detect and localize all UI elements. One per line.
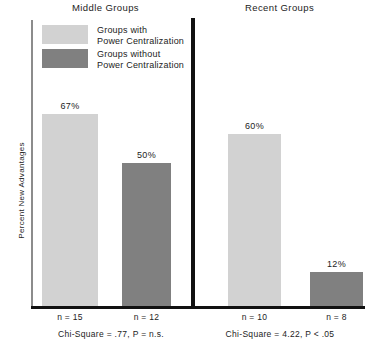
y-axis-line (31, 20, 33, 308)
legend: Groups with Power Centralization Groups … (42, 25, 184, 73)
y-axis-label: Percent New Advantages (17, 121, 26, 261)
bar-recent-without-power (310, 272, 363, 306)
legend-swatch-dark (42, 49, 88, 68)
legend-item-with-power-centralization: Groups with Power Centralization (42, 25, 184, 46)
bar-recent-with-power (228, 134, 281, 306)
legend-item-without-power-centralization: Groups without Power Centralization (42, 49, 184, 70)
panel-divider-line (191, 18, 195, 309)
panel-title-middle-groups: Middle Groups (72, 2, 139, 13)
legend-label-without-power-centralization: Groups without Power Centralization (97, 49, 184, 70)
n-label-1: n = 15 (42, 312, 98, 322)
n-label-3: n = 10 (228, 312, 281, 322)
legend-label-with-power-centralization: Groups with Power Centralization (97, 25, 184, 46)
bar-chart-figure: Middle Groups Recent Groups Percent New … (0, 0, 370, 345)
x-axis-baseline (31, 306, 365, 309)
bar-middle-without-power (122, 163, 171, 306)
bar-value-label-4: 12% (310, 259, 363, 269)
n-label-2: n = 12 (122, 312, 171, 322)
bar-value-label-1: 67% (42, 101, 98, 111)
chi-square-annotation-right: Chi-Square = 4.22, P < .05 (195, 329, 365, 339)
n-label-4: n = 8 (310, 312, 363, 322)
chi-square-annotation-left: Chi-Square = .77, P = n.s. (31, 329, 191, 339)
bar-value-label-2: 50% (122, 150, 171, 160)
legend-swatch-light (42, 25, 88, 44)
bar-middle-with-power (42, 114, 98, 306)
bar-value-label-3: 60% (228, 121, 281, 131)
panel-title-recent-groups: Recent Groups (245, 2, 314, 13)
